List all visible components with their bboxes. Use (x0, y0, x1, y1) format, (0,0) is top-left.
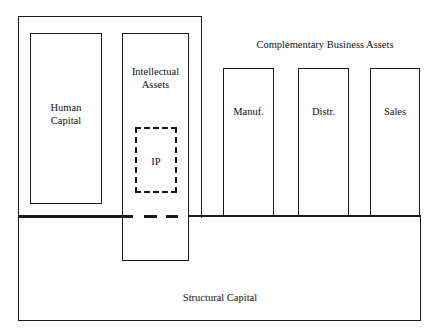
structural-capital-box (18, 216, 421, 321)
distribution-label: Distr. (298, 105, 349, 118)
complementary-business-assets-label: Complementary Business Assets (232, 38, 418, 51)
manufacturing-box (223, 68, 274, 217)
human-capital-label-line1: Human (30, 101, 102, 114)
boundary-dash-3 (166, 215, 178, 218)
structural-capital-label: Structural Capital (150, 291, 290, 304)
intellectual-assets-label: Intellectual Assets (122, 65, 189, 91)
boundary-dash-1 (123, 215, 133, 218)
ip-label: IP (135, 155, 177, 168)
intellectual-assets-label-line1: Intellectual (122, 65, 189, 78)
intellectual-assets-label-line2: Assets (122, 78, 189, 91)
boundary-line-left (18, 215, 123, 218)
boundary-dash-2 (144, 215, 157, 218)
human-capital-label: Human Capital (30, 101, 102, 127)
human-capital-label-line2: Capital (30, 114, 102, 127)
distribution-box (298, 68, 349, 217)
manufacturing-label: Manuf. (223, 105, 274, 118)
sales-label: Sales (370, 105, 420, 118)
sales-box (370, 68, 420, 217)
